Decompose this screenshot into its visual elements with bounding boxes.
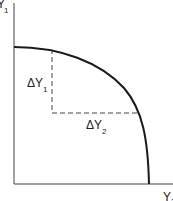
frontier-curve	[14, 47, 149, 184]
y-axis-label-sub: 1	[4, 6, 9, 15]
x-axis-label-sub: 2	[171, 197, 173, 201]
delta-y2-label-sub: 2	[102, 127, 107, 136]
ppf-diagram: Y 1 Y 2 ΔY 1 ΔY 2	[0, 0, 173, 201]
delta-y1-label: ΔY	[27, 76, 43, 90]
delta-y1-label-sub: 1	[43, 85, 48, 94]
x-axis-label: Y	[163, 190, 171, 201]
delta-y2-label: ΔY	[86, 118, 102, 132]
